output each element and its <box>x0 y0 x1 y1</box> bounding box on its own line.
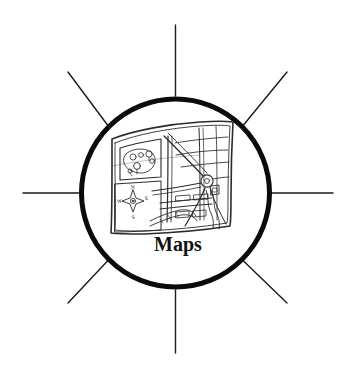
compass-label-north: N <box>130 184 135 191</box>
caption-maps: Maps <box>154 233 202 256</box>
maps-icon-artwork: N W E S Maps <box>0 0 356 373</box>
icon-canvas: N W E S Maps <box>0 0 356 373</box>
street-map-drawing <box>111 121 233 234</box>
compass-center-dot <box>132 200 134 202</box>
